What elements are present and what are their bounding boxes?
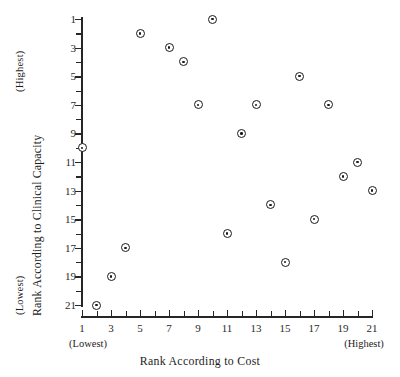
data-point [339, 172, 348, 181]
scatter-plot: Rank According to Clinical Capacity (Hig… [0, 0, 400, 377]
data-point [92, 301, 101, 310]
data-point [252, 100, 261, 109]
data-point [107, 272, 116, 281]
data-point [194, 100, 203, 109]
data-point [324, 100, 333, 109]
data-point [78, 143, 87, 152]
data-point [223, 229, 232, 238]
data-point [281, 258, 290, 267]
data-point [136, 29, 145, 38]
data-point [266, 200, 275, 209]
data-point [208, 15, 217, 24]
data-point [295, 72, 304, 81]
data-point [310, 215, 319, 224]
data-point [165, 43, 174, 52]
data-point [368, 186, 377, 195]
data-point-layer [0, 0, 400, 377]
data-point [179, 57, 188, 66]
data-point [121, 243, 130, 252]
data-point [237, 129, 246, 138]
data-point [353, 158, 362, 167]
